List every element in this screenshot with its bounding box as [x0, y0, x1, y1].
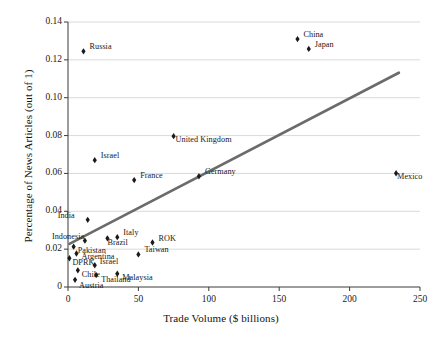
- x-axis-title: Trade Volume ($ billions): [0, 312, 442, 324]
- x-tick-label: 250: [400, 294, 440, 304]
- data-point-label: Israel: [101, 151, 119, 160]
- data-point-marker: [93, 157, 97, 163]
- data-point-marker: [86, 217, 90, 223]
- data-point-marker: [307, 46, 311, 52]
- data-point-marker: [132, 177, 136, 183]
- data-point-label: Japan: [315, 40, 334, 49]
- scatter-plot-figure: 00.020.040.060.080.100.120.1405010015020…: [0, 0, 442, 337]
- y-tick-label: 0.14: [22, 16, 62, 26]
- x-tick-label: 0: [48, 294, 88, 304]
- data-point-label: Brazil: [107, 238, 127, 247]
- data-point-marker: [136, 251, 140, 257]
- x-tick-label: 100: [189, 294, 229, 304]
- data-point-marker: [76, 267, 80, 273]
- data-point-label: Mexico: [397, 172, 422, 181]
- data-point-label: DPRK: [72, 258, 94, 267]
- x-tick-label: 200: [330, 294, 370, 304]
- data-point-label: Italy: [123, 228, 138, 237]
- data-point-label: China: [304, 30, 324, 39]
- data-point-label: Thailand: [101, 275, 131, 284]
- data-point-marker: [73, 277, 77, 283]
- data-point-label: United Kingdom: [176, 135, 232, 144]
- data-point-label: Russia: [89, 42, 111, 51]
- data-point-label: ROK: [158, 234, 175, 243]
- data-point-marker: [81, 48, 85, 54]
- data-point-label: Germany: [205, 167, 236, 176]
- data-point-label: Chile: [82, 270, 100, 279]
- gridlines: [68, 22, 420, 249]
- data-point-label: France: [140, 171, 163, 180]
- x-tick-label: 50: [118, 294, 158, 304]
- data-point-label: Austria: [79, 281, 103, 290]
- data-point-label: Indonesia: [52, 232, 84, 241]
- x-tick-label: 150: [259, 294, 299, 304]
- data-point-label: Israel: [100, 257, 118, 266]
- data-point-marker: [295, 36, 299, 42]
- data-point-label: Taiwan: [144, 245, 168, 254]
- y-axis-title: Percentage of News Articles (out of 1): [22, 26, 34, 286]
- data-point-label: India: [58, 211, 75, 220]
